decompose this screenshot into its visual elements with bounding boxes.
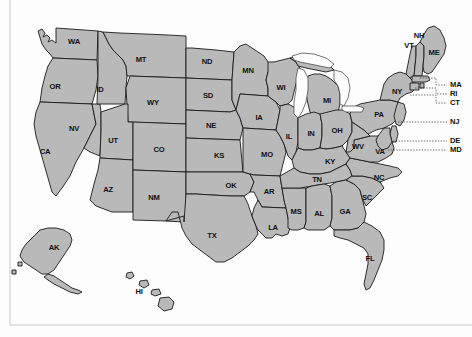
state-shape-ok[interactable] — [186, 172, 254, 196]
state-label-ak: AK — [49, 243, 60, 252]
state-label-sc: SC — [362, 193, 373, 202]
state-label-ks: KS — [214, 151, 224, 160]
state-label-mo: MO — [261, 150, 273, 159]
callout-label-ct: CT — [450, 98, 460, 107]
state-label-ky: KY — [325, 157, 335, 166]
state-label-ia: IA — [255, 113, 263, 122]
state-label-nm: NM — [148, 193, 159, 202]
map-svg: WAORCANVIDMTWYUTAZCONMNDSDNEKSOKTXMNIAMO… — [0, 0, 472, 337]
state-label-tn: TN — [312, 175, 322, 184]
callout-label-de: DE — [450, 136, 460, 145]
state-label-wa: WA — [68, 37, 81, 46]
state-shape-ri[interactable] — [420, 83, 424, 88]
state-label-ca: CA — [40, 147, 51, 156]
state-label-ne: NE — [206, 121, 216, 130]
state-shape-ut[interactable] — [100, 104, 133, 160]
state-label-la: LA — [268, 223, 278, 232]
state-shape-ct[interactable] — [410, 83, 419, 90]
state-shape-or[interactable] — [40, 58, 98, 104]
state-label-me: ME — [429, 48, 440, 57]
state-label-nh: NH — [414, 31, 425, 40]
leader-line-ri — [415, 88, 447, 94]
state-label-tx: TX — [207, 231, 216, 240]
callout-label-ri: RI — [450, 89, 457, 98]
leader-line-ct — [410, 95, 447, 103]
state-label-hi: HI — [135, 287, 142, 296]
state-label-ga: GA — [340, 207, 352, 216]
callout-label-ma: MA — [450, 80, 462, 89]
state-label-az: AZ — [103, 185, 113, 194]
state-shape-hi-maui[interactable] — [151, 289, 161, 296]
state-label-oh: OH — [332, 126, 343, 135]
state-shape-ma[interactable] — [412, 76, 430, 82]
us-state-map: WAORCANVIDMTWYUTAZCONMNDSDNEKSOKTXMNIAMO… — [0, 0, 472, 337]
callout-label-nj: NJ — [450, 117, 459, 126]
state-label-wv: WV — [352, 142, 365, 151]
state-label-sd: SD — [203, 91, 214, 100]
state-shapes-group — [12, 26, 446, 311]
state-label-in: IN — [307, 129, 314, 138]
state-shape-hi-bigisland[interactable] — [158, 297, 174, 311]
state-label-wy: WY — [147, 98, 159, 107]
state-label-wi: WI — [277, 83, 286, 92]
state-shape-ak-aleutians[interactable] — [44, 274, 82, 294]
state-shape-fl[interactable] — [334, 222, 384, 290]
state-label-va: VA — [375, 147, 385, 156]
state-label-al: AL — [314, 209, 324, 218]
state-label-ms: MS — [291, 207, 302, 216]
state-shape-ak-isle-2[interactable] — [12, 270, 16, 274]
state-label-mi: MI — [323, 96, 331, 105]
state-label-or: OR — [50, 82, 62, 91]
state-label-ny: NY — [392, 87, 402, 96]
state-label-nc: NC — [374, 173, 385, 182]
state-label-ok: OK — [226, 181, 238, 190]
state-shape-ak[interactable] — [20, 228, 72, 274]
lake-erie-shape — [342, 106, 364, 112]
state-shape-ak-isle-1[interactable] — [18, 262, 22, 266]
state-label-nv: NV — [69, 124, 80, 133]
state-label-id: ID — [96, 85, 104, 94]
state-label-mt: MT — [136, 55, 147, 64]
state-label-co: CO — [154, 145, 165, 154]
state-label-vt: VT — [404, 41, 414, 50]
callout-label-md: MD — [450, 145, 462, 154]
state-label-mn: MN — [242, 66, 253, 75]
state-label-il: IL — [286, 132, 293, 141]
state-label-fl: FL — [366, 254, 375, 263]
state-shape-hi-kauai[interactable] — [126, 272, 134, 279]
state-label-nd: ND — [202, 57, 213, 66]
state-label-pa: PA — [374, 110, 384, 119]
state-label-ar: AR — [264, 187, 275, 196]
state-shape-al[interactable] — [304, 184, 332, 230]
state-label-ut: UT — [108, 136, 118, 145]
